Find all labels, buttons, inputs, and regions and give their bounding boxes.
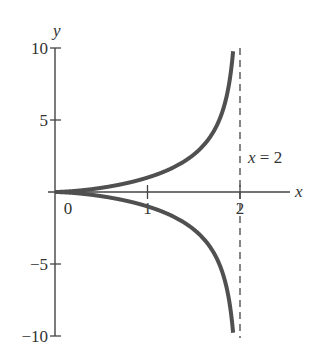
y-tick-label: 10	[31, 39, 48, 58]
y-axis-label: y	[51, 21, 61, 40]
asymptote-eq: = 2	[256, 148, 283, 167]
y-tick-label: 5	[40, 111, 49, 130]
y-tick-label: −10	[21, 327, 48, 346]
asymptote-label: x = 2	[247, 148, 282, 167]
cissoid-plot: 105−5−10 012 y x x = 2	[0, 0, 322, 360]
y-tick-label: −5	[30, 255, 48, 274]
x-tick-label: 0	[64, 199, 73, 218]
upper-branch-curve	[55, 51, 233, 192]
x-axis-label: x	[294, 182, 303, 201]
